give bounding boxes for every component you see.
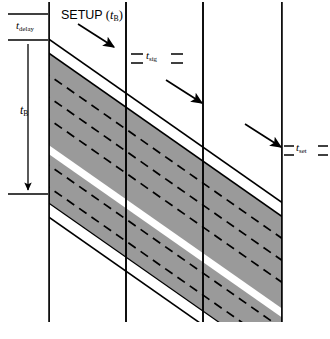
t-delay-label: tdelay xyxy=(16,20,34,32)
t-b-label: tB xyxy=(20,104,28,117)
gap-arrow-right xyxy=(245,124,281,147)
band-group xyxy=(30,2,330,339)
timing-diagram xyxy=(0,0,330,339)
t-set-label: tset xyxy=(296,142,307,154)
setup-label: SETUP (tB) xyxy=(61,9,123,22)
setup-arrow xyxy=(78,24,114,47)
t-sig-label: tsig xyxy=(146,50,157,62)
gap-arrow-mid xyxy=(166,80,202,103)
